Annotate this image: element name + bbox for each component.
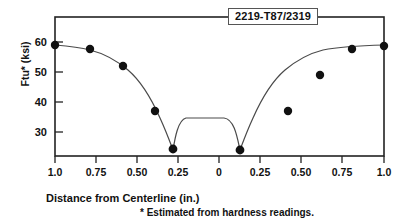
- x-axis-title: Distance from Centerline (in.): [46, 192, 199, 204]
- data-point: [86, 45, 94, 53]
- curve-right-branch: [240, 45, 384, 150]
- data-point: [284, 107, 292, 115]
- data-point: [151, 107, 159, 115]
- y-axis-ticks: [55, 42, 63, 132]
- curve-weld-plateau: [173, 118, 240, 150]
- y-tick-label: 40: [23, 96, 47, 108]
- x-tick-label: 0.75: [76, 166, 116, 178]
- data-point: [51, 41, 59, 49]
- chart-figure: 2219-T87/2319 Ftu* (ksi) 60 50 40 30 1.0…: [0, 0, 410, 219]
- x-tick-label: 0.50: [117, 166, 157, 178]
- plot-frame: [55, 17, 384, 156]
- data-point: [169, 145, 178, 154]
- data-point: [348, 45, 356, 53]
- x-tick-label: 1.0: [35, 166, 75, 178]
- data-point: [119, 62, 127, 70]
- x-axis-ticks: [55, 156, 384, 163]
- data-point-markers: [51, 41, 388, 155]
- data-point: [380, 42, 388, 50]
- x-tick-label: 0.25: [240, 166, 280, 178]
- x-tick-label: 0: [199, 166, 239, 178]
- chart-plot-area: [0, 0, 410, 219]
- x-tick-label: 0.75: [322, 166, 362, 178]
- y-tick-label: 50: [23, 66, 47, 78]
- chart-title-label: 2219-T87/2319: [228, 8, 318, 25]
- x-tick-label: 0.50: [281, 166, 321, 178]
- chart-footnote: * Estimated from hardness readings.: [140, 207, 314, 218]
- y-tick-label: 60: [23, 36, 47, 48]
- x-tick-label: 1.0: [364, 166, 404, 178]
- data-point: [236, 146, 245, 155]
- data-point: [316, 71, 324, 79]
- curve-left-branch: [55, 45, 173, 150]
- x-tick-label: 0.25: [158, 166, 198, 178]
- y-tick-label: 30: [23, 126, 47, 138]
